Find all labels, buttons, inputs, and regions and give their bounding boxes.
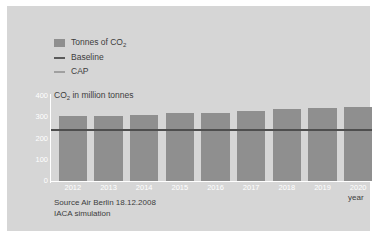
baseline-line — [51, 129, 372, 131]
chart-legend: Tonnes of CO2 Baseline CAP — [54, 37, 194, 79]
legend-item-tonnes: Tonnes of CO2 — [54, 37, 194, 48]
legend-label-baseline: Baseline — [71, 52, 104, 62]
chart-panel: Tonnes of CO2 Baseline CAP CO2 in millio… — [7, 6, 370, 231]
legend-item-cap: CAP — [54, 65, 194, 76]
x-tick-label: 2017 — [233, 183, 269, 193]
x-tick-label: 2016 — [198, 183, 234, 193]
y-tick-label: 300 — [24, 113, 48, 121]
x-axis-tick-labels: 201220132014201520162017201820192020 — [51, 183, 372, 195]
legend-item-baseline: Baseline — [54, 51, 194, 62]
legend-label-tonnes: Tonnes of CO2 — [71, 37, 126, 48]
source-line-2: IACA simulation — [54, 208, 156, 219]
y-tick-label: 100 — [24, 156, 48, 164]
source-line-1: Source Air Berlin 18.12.2008 — [54, 197, 156, 208]
legend-label-cap: CAP — [71, 66, 88, 76]
x-tick-label: 2015 — [162, 183, 198, 193]
bar — [237, 111, 266, 181]
x-axis-line — [50, 181, 372, 182]
x-tick-label: 2013 — [91, 183, 127, 193]
legend-baseline-line-icon — [54, 53, 65, 61]
bar — [130, 115, 159, 181]
source-note: Source Air Berlin 18.12.2008 IACA simula… — [54, 197, 156, 219]
x-tick-label: 2020 — [340, 183, 376, 193]
x-tick-label: 2018 — [269, 183, 305, 193]
bar — [166, 113, 195, 181]
bar — [273, 109, 302, 181]
bar — [59, 116, 88, 181]
bar — [94, 116, 123, 181]
y-tick-label: 400 — [24, 92, 48, 100]
x-tick-label: 2012 — [55, 183, 91, 193]
bar — [308, 108, 337, 181]
bar-series — [51, 96, 372, 181]
y-tick-label: 200 — [24, 135, 48, 143]
legend-cap-line-icon — [54, 67, 65, 75]
bar — [344, 107, 373, 181]
x-tick-label: 2019 — [305, 183, 341, 193]
y-axis-tick-labels: 0100200300400 — [22, 96, 48, 181]
x-tick-label: 2014 — [126, 183, 162, 193]
y-tick-label: 0 — [24, 177, 48, 185]
bar — [201, 113, 230, 181]
slide-canvas: Tonnes of CO2 Baseline CAP CO2 in millio… — [0, 0, 377, 246]
x-axis-title: year — [348, 193, 364, 202]
legend-bar-swatch-icon — [54, 39, 65, 47]
plot-area — [51, 96, 372, 181]
